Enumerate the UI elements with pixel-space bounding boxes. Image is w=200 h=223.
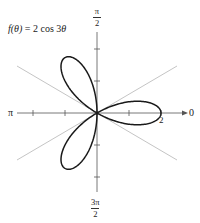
polar-rose-figure: f(θ) = 2 cos 3θ π 2 3π 2 π 0 2 <box>0 0 200 223</box>
equation-body: = 2 cos 3 <box>22 23 61 34</box>
fraction-numerator: π <box>95 7 99 16</box>
arrow-right-icon <box>182 111 188 116</box>
radial-tick-label-2: 2 <box>159 116 164 125</box>
angle-label-3pi-over-2: 3π 2 <box>91 198 100 218</box>
fraction-denominator: 2 <box>93 210 97 219</box>
equation-func: f(θ) <box>8 23 22 34</box>
angle-label-pi-over-2: π 2 <box>93 7 101 27</box>
fraction-denominator: 2 <box>95 19 99 28</box>
fraction-numerator: 3π <box>91 198 100 207</box>
angle-label-0: 0 <box>189 108 194 118</box>
equation-var: θ <box>61 23 66 34</box>
angle-label-pi: π <box>8 108 13 118</box>
equation-label: f(θ) = 2 cos 3θ <box>8 23 66 34</box>
